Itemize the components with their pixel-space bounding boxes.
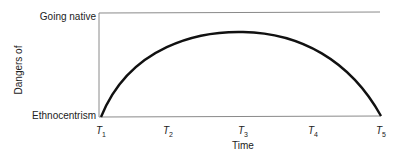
x-tick-t1: T1 (96, 125, 106, 138)
upper-bound-line (99, 12, 380, 13)
x-tick-t2: T2 (163, 125, 173, 138)
x-axis (99, 116, 381, 117)
x-tick-t5: T5 (376, 125, 386, 138)
diagram-canvas (0, 0, 400, 161)
x-tick-t3: T3 (238, 125, 248, 138)
danger-curve (101, 32, 381, 117)
x-tick-t4: T4 (308, 125, 318, 138)
y-label-going-native: Going native (40, 11, 96, 23)
y-axis-title: Dangers of (13, 46, 24, 95)
y-label-ethnocentrism: Ethnocentrism (32, 110, 96, 122)
x-axis-title: Time (232, 140, 254, 151)
